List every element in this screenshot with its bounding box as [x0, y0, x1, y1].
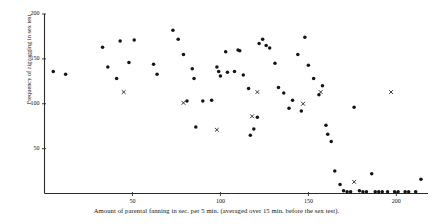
y-tick-label: 150 [18, 55, 40, 61]
data-point-dot [115, 77, 119, 81]
data-point-dot [312, 77, 316, 81]
y-tick-label: 50 [18, 145, 40, 151]
data-point-cross [389, 90, 393, 94]
data-point-dot [329, 140, 333, 144]
data-point-dot [238, 49, 242, 53]
y-tick-label: 200 [18, 10, 40, 16]
data-point-dot [303, 36, 307, 40]
y-tick-label: 100 [18, 100, 40, 106]
data-point-dot [324, 124, 328, 128]
data-point-cross [182, 101, 186, 105]
data-point-dot [101, 45, 105, 49]
data-point-dot [370, 172, 374, 176]
data-point-dot [249, 133, 253, 137]
data-point-dot [352, 106, 356, 110]
data-point-dot [386, 190, 390, 194]
data-point-dot [377, 190, 381, 194]
data-point-dot [321, 84, 325, 88]
data-point-dot [345, 190, 349, 194]
data-point-dot [403, 190, 407, 194]
data-point-dot [210, 98, 214, 102]
data-point-dot [300, 109, 304, 113]
data-point-dot [261, 37, 265, 41]
data-point-dot [171, 28, 175, 32]
data-point-cross [319, 90, 323, 94]
data-point-dot [233, 70, 237, 74]
data-point-dot [326, 133, 330, 137]
data-point-dot [338, 183, 342, 187]
data-point-dot [393, 190, 397, 194]
data-point-dot [291, 98, 295, 102]
data-point-dot [268, 46, 272, 50]
data-point-cross [215, 128, 219, 132]
data-point-dot [192, 77, 196, 81]
data-point-dot [414, 190, 418, 194]
data-point-dot [52, 70, 56, 74]
data-point-dot [256, 115, 260, 119]
tick-marks [42, 14, 396, 196]
data-point-dot [264, 44, 268, 48]
data-point-dot [182, 53, 186, 57]
data-point-dot [361, 190, 365, 194]
plot-canvas [0, 0, 433, 224]
data-point-dot [155, 72, 159, 76]
x-tick-label: 150 [296, 198, 320, 204]
x-axis-label: Amount of parental fanning in sec. per 5… [0, 207, 433, 214]
data-point-dot [201, 99, 205, 103]
data-point-cross [352, 180, 356, 184]
data-point-cross [301, 102, 305, 106]
data-point-dot [407, 190, 411, 194]
data-point-cross [255, 90, 259, 94]
data-point-dot [215, 65, 219, 69]
data-point-dot [252, 127, 256, 131]
x-tick-label: 100 [208, 198, 232, 204]
data-point-cross [250, 114, 254, 118]
data-point-cross [122, 90, 126, 94]
data-point-dot [226, 71, 230, 75]
data-point-dot [381, 190, 385, 194]
data-point-dot [419, 177, 423, 181]
data-point-dot [257, 42, 261, 46]
data-point-dot [277, 86, 281, 90]
scatter-chart-figure: Frequency of zigzagging in sex test 5010… [0, 0, 433, 224]
x-tick-label: 50 [120, 198, 144, 204]
data-point-dot [358, 189, 362, 193]
data-point-dot [247, 87, 251, 91]
data-point-dot [152, 63, 156, 67]
data-point-dot [118, 39, 122, 43]
data-point-dot [176, 37, 180, 41]
data-point-dot [242, 73, 246, 77]
data-point-dot [217, 70, 221, 74]
data-point-dot [64, 72, 68, 76]
data-point-dot [219, 74, 223, 78]
data-point-dot [396, 190, 400, 194]
data-point-dot [282, 91, 286, 95]
data-point-dot [191, 67, 195, 71]
x-tick-label: 200 [384, 198, 408, 204]
data-point-dot [185, 99, 189, 103]
data-point-dot [127, 61, 131, 64]
data-point-dot [296, 53, 300, 57]
data-point-dot [349, 190, 353, 194]
data-point-dot [333, 169, 337, 173]
data-point-dot [287, 106, 291, 110]
data-points-layer [52, 28, 423, 193]
data-point-dot [273, 62, 277, 66]
data-point-dot [307, 63, 311, 67]
data-point-dot [132, 38, 136, 42]
data-point-dot [224, 50, 228, 54]
data-point-dot [373, 190, 377, 194]
data-point-dot [106, 65, 110, 69]
data-point-dot [365, 190, 369, 194]
data-point-dot [342, 189, 346, 193]
data-point-dot [194, 125, 198, 128]
axes [45, 14, 429, 194]
